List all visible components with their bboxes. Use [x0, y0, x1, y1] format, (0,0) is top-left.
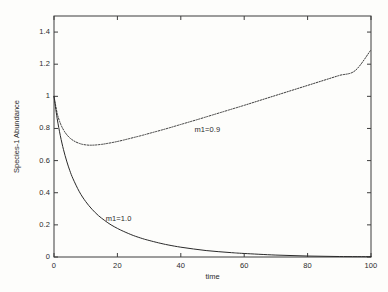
series-lines	[54, 50, 371, 257]
series-annotation-m1-10: m1=1.0	[106, 214, 132, 223]
plot-canvas	[0, 0, 388, 292]
ytick-label: 1	[14, 91, 50, 100]
ytick-label: 1.2	[14, 59, 50, 68]
series-annotation-m1-09: m1=0.9	[195, 125, 221, 134]
ytick-label: 1.4	[14, 27, 50, 36]
y-axis-title: Species-1 Abundance	[12, 100, 21, 173]
ytick-label: 0.4	[14, 188, 50, 197]
ytick-label: 0.2	[14, 220, 50, 229]
ytick-label: 0	[14, 252, 50, 261]
xtick-label: 100	[351, 261, 388, 270]
xtick-label: 60	[224, 261, 264, 270]
x-axis-title: time	[173, 272, 253, 281]
xtick-label: 80	[288, 261, 328, 270]
chart-figure: 0 0.2 0.4 0.6 0.8 1 1.2 1.4 0 20 40 60 8…	[0, 0, 388, 292]
plot-frame	[54, 16, 371, 257]
xtick-label: 0	[34, 261, 74, 270]
xtick-label: 20	[97, 261, 137, 270]
xtick-label: 40	[161, 261, 201, 270]
tick-marks	[54, 16, 371, 257]
series-line-m1-1-0	[54, 96, 371, 256]
